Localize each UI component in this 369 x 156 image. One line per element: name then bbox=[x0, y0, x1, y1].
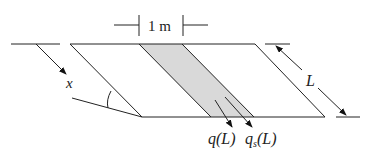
flux-label-q: q(L) bbox=[208, 130, 236, 148]
diagram-canvas: x 1 m L q(L) qs(L) bbox=[0, 0, 369, 156]
width-label: 1 m bbox=[148, 18, 171, 34]
flux-label-qs: qs(L) bbox=[245, 130, 276, 149]
length-label: L bbox=[305, 72, 315, 89]
shaded-strip bbox=[139, 44, 254, 117]
slope-angle-indicator bbox=[72, 91, 142, 117]
x-label: x bbox=[65, 75, 73, 91]
x-axis-indicator bbox=[11, 44, 66, 74]
